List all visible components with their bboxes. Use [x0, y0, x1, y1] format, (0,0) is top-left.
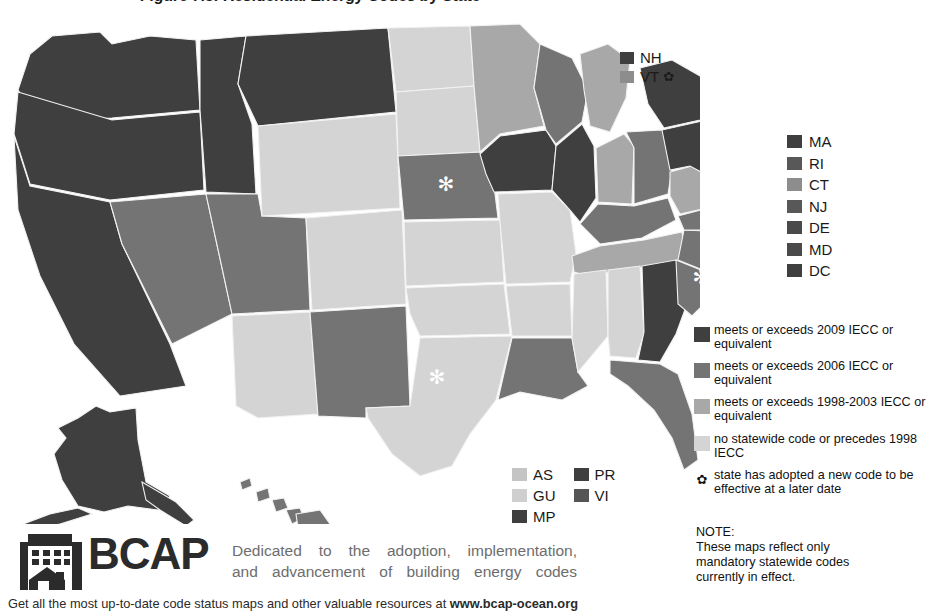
label-MP: MP: [533, 508, 556, 525]
legend-item-DC: DC: [787, 260, 832, 282]
state-AK-aleutians: [18, 508, 92, 524]
marker-NC: ✻: [693, 265, 700, 289]
state-MS: [572, 270, 608, 372]
label-NH: NH: [640, 49, 662, 66]
state-MT: [238, 28, 396, 126]
swatch-DC: [787, 264, 802, 277]
swatch-AS: [512, 468, 527, 481]
label-CT: CT: [809, 176, 829, 193]
label-DC: DC: [809, 262, 831, 279]
east-states-legend: MA RI CT NJ DE MD DC: [787, 131, 832, 282]
key-label-2009: meets or exceeds 2009 IECC or equivalent: [714, 322, 926, 351]
state-ND: [388, 26, 474, 92]
us-map: ✻ ✻ ✻: [0, 14, 700, 524]
legend-item-RI: RI: [787, 153, 832, 175]
swatch-CT: [787, 178, 802, 191]
footer-resource-line: Get all the most up-to-date code status …: [8, 596, 578, 611]
key-entry-2006: meets or exceeds 2006 IECC or equivalent: [694, 358, 926, 387]
legend-item-CT: CT: [787, 174, 832, 196]
state-MO: [498, 192, 576, 284]
territories-spacer: [556, 464, 574, 527]
flower-icon-VT: ✿: [663, 69, 674, 84]
territories-col-1: AS GU MP: [512, 464, 556, 527]
key-2006-line1: meets or exceeds 2006 IECC or: [714, 359, 893, 373]
swatch-MA: [787, 135, 802, 148]
key-label-2006: meets or exceeds 2006 IECC or equivalent: [714, 358, 926, 387]
state-OK: [406, 284, 510, 336]
marker-NE: ✻: [438, 172, 455, 196]
legend-item-VI: VI: [574, 485, 616, 506]
marker-TX: ✻: [429, 365, 446, 389]
note-line-3: currently in effect.: [696, 570, 849, 585]
label-DE: DE: [809, 219, 830, 236]
swatch-PR: [574, 468, 589, 481]
state-NM: [310, 306, 410, 418]
key-new-line1: state has adopted a new code: [714, 468, 882, 482]
color-key: meets or exceeds 2009 IECC or equivalent…: [694, 322, 926, 503]
note-heading: NOTE:: [696, 525, 849, 540]
bcap-tagline: Dedicated to the adoption, implementatio…: [232, 541, 577, 583]
legend-item-DE: DE: [787, 217, 832, 239]
bcap-website-link[interactable]: www.bcap-ocean.org: [450, 596, 578, 611]
key-entry-new-code: ✿ state has adopted a new code to be eff…: [694, 467, 926, 496]
legend-item-PR: PR: [574, 464, 616, 485]
swatch-2009: [694, 327, 710, 342]
key-entry-2009: meets or exceeds 2009 IECC or equivalent: [694, 322, 926, 351]
state-HI: [240, 478, 330, 524]
state-SD: [396, 86, 480, 156]
state-FL: [610, 360, 698, 470]
label-MD: MD: [809, 241, 832, 258]
key-label-1998-2003: meets or exceeds 1998-2003 IECC or equiv…: [714, 394, 926, 423]
swatch-1998-2003: [694, 399, 710, 414]
map-note: NOTE: These maps reflect only mandatory …: [696, 525, 849, 585]
swatch-none: [694, 436, 710, 451]
state-IN: [596, 134, 634, 204]
note-line-1: These maps reflect only: [696, 540, 849, 555]
label-RI: RI: [809, 155, 824, 172]
state-AR: [506, 284, 572, 336]
state-AZ: [232, 312, 318, 418]
key-2006-line2: equivalent: [714, 373, 771, 387]
key-2009-line2: equivalent: [714, 337, 771, 351]
state-AL: [608, 266, 644, 358]
footer: BCAP Dedicated to the adoption, implemen…: [0, 524, 700, 616]
label-AS: AS: [533, 466, 553, 483]
label-PR: PR: [595, 466, 616, 483]
swatch-NJ: [787, 200, 802, 213]
bcap-logo-icon: [20, 534, 82, 590]
legend-item-VT: VT ✿: [620, 67, 674, 86]
legend-item-GU: GU: [512, 485, 556, 506]
swatch-MD: [787, 243, 802, 256]
label-VT: VT: [640, 68, 659, 85]
swatch-NH: [620, 52, 634, 64]
key-entry-none: no statewide code or precedes 1998 IECC: [694, 431, 926, 460]
label-VI: VI: [595, 487, 609, 504]
label-GU: GU: [533, 487, 556, 504]
key-2009-line1: meets or exceeds 2009 IECC or: [714, 323, 893, 337]
swatch-VT: [620, 71, 634, 83]
note-line-2: mandatory statewide codes: [696, 555, 849, 570]
swatch-2006: [694, 363, 710, 378]
figure-title: Figure 7.5: Residential Energy Codes by …: [0, 0, 620, 5]
figure-page: Figure 7.5: Residential Energy Codes by …: [0, 0, 928, 616]
footer-note-text: Get all the most up-to-date code status …: [8, 596, 450, 611]
swatch-VI: [574, 489, 589, 502]
state-KS: [404, 220, 504, 286]
key-entry-1998-2003: meets or exceeds 1998-2003 IECC or equiv…: [694, 394, 926, 423]
label-NJ: NJ: [809, 198, 827, 215]
swatch-RI: [787, 157, 802, 170]
territories-col-2: PR VI: [574, 464, 616, 527]
key-label-new-code: state has adopted a new code to be effec…: [714, 467, 926, 496]
bcap-tagline-line1: Dedicated to the adoption, implementatio…: [232, 541, 577, 562]
bcap-wordmark: BCAP: [88, 532, 209, 576]
state-WV: [670, 166, 700, 214]
legend-item-MA: MA: [787, 131, 832, 153]
bcap-tagline-line2: and advancement of building energy codes: [232, 562, 577, 583]
swatch-MP: [512, 510, 527, 523]
legend-item-AS: AS: [512, 464, 556, 485]
territories-legend: AS GU MP PR VI: [512, 464, 615, 527]
legend-item-MD: MD: [787, 239, 832, 261]
swatch-GU: [512, 489, 527, 502]
flower-icon: ✿: [694, 473, 710, 486]
legend-item-NH: NH: [620, 48, 674, 67]
